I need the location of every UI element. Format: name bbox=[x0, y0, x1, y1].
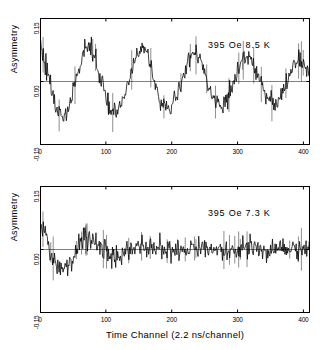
figure-root: 0.15 0.00 -0.15 0 100 200 300 400 395 Oe… bbox=[0, 0, 320, 350]
data-trace bbox=[40, 222, 310, 276]
y-axis-title-bottom: Asymmetry bbox=[9, 177, 19, 257]
x-tick-label-bottom-3: 300 bbox=[232, 316, 242, 323]
panel-annotation-bottom: 395 Oe 7.3 K bbox=[208, 208, 271, 218]
x-tick-label-top-1: 100 bbox=[101, 148, 111, 155]
y-tick-label-bottom-0: 0.15 bbox=[34, 191, 41, 203]
y-tick-label-top-0: 0.15 bbox=[34, 23, 41, 35]
x-tick-label-top-2: 200 bbox=[167, 148, 177, 155]
x-tick-label-bottom-0: 0 bbox=[38, 316, 41, 323]
x-tick-label-bottom-1: 100 bbox=[101, 316, 111, 323]
plot-area-bottom bbox=[40, 186, 310, 313]
error-bars bbox=[43, 211, 301, 280]
y-tick-label-bottom-1: 0.00 bbox=[34, 253, 41, 265]
y-axis-title-top: Asymmetry bbox=[9, 9, 19, 89]
x-tick-label-bottom-4: 400 bbox=[298, 316, 308, 323]
x-tick-label-top-4: 400 bbox=[298, 148, 308, 155]
x-axis-title: Time Channel (2.2 ns/channel) bbox=[40, 329, 310, 340]
y-tick-label-top-1: 0.00 bbox=[34, 85, 41, 97]
plot-area-top bbox=[40, 18, 310, 145]
chart-panel-bottom: 0.15 0.00 -0.15 0 100 200 300 400 395 Oe… bbox=[40, 186, 310, 313]
chart-panel-top: 0.15 0.00 -0.15 0 100 200 300 400 395 Oe… bbox=[40, 18, 310, 145]
x-tick-label-bottom-2: 200 bbox=[167, 316, 177, 323]
error-bars bbox=[43, 36, 303, 132]
x-tick-label-top-3: 300 bbox=[232, 148, 242, 155]
x-tick-label-top-0: 0 bbox=[38, 148, 41, 155]
panel-annotation-top: 395 Oe 8.5 K bbox=[208, 40, 271, 50]
